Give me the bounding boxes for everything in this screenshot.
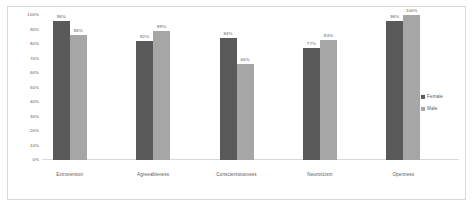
bar-male [237,64,254,160]
y-axis-tick-label: 80% [30,42,39,46]
legend-label-male: Male [427,107,437,112]
y-axis-tick-label: 20% [30,129,39,133]
bar-value-label: 66% [240,58,249,62]
bar-male [153,31,170,160]
bar-value-label: 84% [223,32,232,36]
y-axis-tick-label: 60% [30,71,39,75]
x-axis-category-label: Conscientiousness [216,173,256,178]
bar-slot: 82% [136,15,153,160]
bar-female [220,38,237,160]
bar-slot: 96% [386,15,403,160]
bar-female [53,21,70,160]
legend-swatch-male-icon [421,107,425,111]
bar-male [320,40,337,160]
bar-male [70,35,87,160]
bar-slot: 83% [320,15,337,160]
bar-value-label: 96% [390,15,399,19]
legend-label-female: Female [427,95,443,100]
bar-value-label: 83% [324,34,333,38]
legend-swatch-female-icon [421,95,425,99]
y-axis: 100%90%80%70%60%50%40%30%20%10%0% [8,7,42,199]
bar-slot: 84% [220,15,237,160]
bar-female [303,48,320,160]
bar-slot: 66% [237,15,254,160]
bar-value-label: 96% [57,15,66,19]
chart-legend: Female Male [421,95,443,111]
bar-slot: 77% [303,15,320,160]
x-axis-category-label: Extroversion [56,173,83,178]
y-axis-tick-label: 10% [30,143,39,147]
bar-value-label: 77% [307,42,316,46]
bar-male [403,15,420,160]
bar-value-label: 89% [157,25,166,29]
y-axis-tick-label: 90% [30,27,39,31]
bar-value-label: 100% [406,9,418,13]
x-axis-category-label: Agreeableness [137,173,169,178]
bar-group: 77%83% [303,15,337,160]
bar-female [136,41,153,160]
bar-slot: 86% [70,15,87,160]
bar-value-label: 82% [140,35,149,39]
bars-canvas: 96%86%82%89%84%66%77%83%96%100% [42,15,459,160]
bar-group: 84%66% [220,15,254,160]
bar-group: 96%86% [53,15,87,160]
y-axis-tick-label: 70% [30,56,39,60]
legend-item-female: Female [421,95,443,100]
x-axis-category-label: Openness [392,173,414,178]
bar-group: 82%89% [136,15,170,160]
y-axis-tick-label: 0% [32,158,39,162]
bar-value-label: 86% [74,29,83,33]
bar-slot: 100% [403,15,420,160]
x-axis-category-label: Neuroticism [307,173,332,178]
y-axis-tick-label: 50% [30,85,39,89]
plot-area: 100%90%80%70%60%50%40%30%20%10%0% 96%86%… [8,7,465,199]
bar-slot: 89% [153,15,170,160]
bar-group: 96%100% [386,15,420,160]
chart-container: 100%90%80%70%60%50%40%30%20%10%0% 96%86%… [7,6,466,200]
bar-slot: 96% [53,15,70,160]
bar-female [386,21,403,160]
y-axis-tick-label: 30% [30,114,39,118]
y-axis-tick-label: 40% [30,100,39,104]
y-axis-tick-label: 100% [27,13,39,17]
legend-item-male: Male [421,107,443,112]
